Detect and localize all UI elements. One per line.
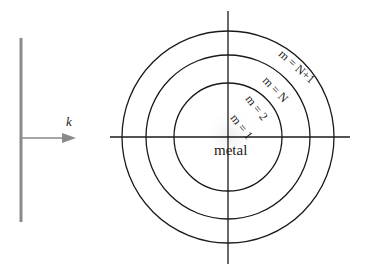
center-label: metal: [214, 142, 247, 158]
wavevector-arrowhead-icon: [62, 133, 76, 143]
ring-label-mN: m = N: [260, 73, 292, 105]
diagram-canvas: k metal m = 1 m = 2 m = N m = N+1: [0, 0, 365, 275]
wavevector-label: k: [66, 114, 72, 129]
ring-label-mN1: m = N+1: [276, 47, 318, 87]
